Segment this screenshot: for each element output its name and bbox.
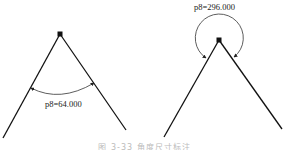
vertex-point-icon (217, 38, 222, 43)
diagram-canvas: p8=64.000 p8=296.000 (0, 0, 289, 150)
vertex-point-icon (58, 32, 63, 37)
left-dimension-label: p8=64.000 (45, 99, 82, 109)
right-angle-leg-a (164, 40, 219, 137)
right-dimension-arc (195, 14, 243, 58)
right-dimension-label: p8=296.000 (194, 2, 235, 12)
left-angle-figure: p8=64.000 (3, 32, 126, 139)
right-angle-figure: p8=296.000 (164, 2, 282, 137)
left-dimension-arc (31, 83, 94, 94)
left-angle-leg-a (3, 34, 60, 138)
right-angle-leg-b (219, 40, 282, 129)
left-angle-leg-b (60, 34, 126, 130)
figure-caption: 图 3-33 角度尺寸标注 (0, 141, 289, 150)
